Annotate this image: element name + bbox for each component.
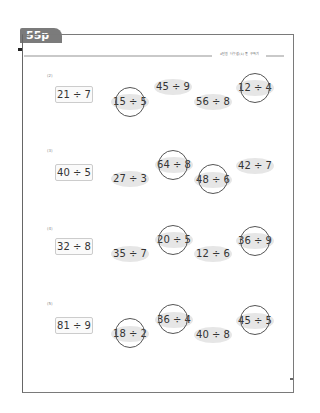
question-box: 40 ÷ 5 xyxy=(55,164,93,181)
answer-circle xyxy=(158,150,188,180)
page-number-mark xyxy=(290,378,293,380)
question-box: 32 ÷ 8 xyxy=(55,238,93,255)
answer-circle xyxy=(158,304,188,334)
answer-circle xyxy=(198,164,228,194)
option-oval[interactable]: 56 ÷ 8 xyxy=(194,94,232,110)
answer-circle xyxy=(240,73,270,103)
problem-number: (3) xyxy=(47,148,53,153)
answer-circle xyxy=(158,225,188,255)
option-oval[interactable]: 27 ÷ 3 xyxy=(111,171,149,187)
unit-header-text: 4단원 나눗셈(1) 몫 구하기 xyxy=(220,52,259,56)
option-oval[interactable]: 12 ÷ 6 xyxy=(194,246,232,262)
answer-circle xyxy=(115,318,145,348)
answer-circle xyxy=(240,305,270,335)
option-oval[interactable]: 40 ÷ 8 xyxy=(194,327,232,343)
problem-number: (5) xyxy=(47,301,53,306)
answer-circle xyxy=(115,87,145,117)
option-oval[interactable]: 35 ÷ 7 xyxy=(111,246,149,262)
problem-number: (2) xyxy=(47,73,53,78)
question-box: 21 ÷ 7 xyxy=(55,86,93,103)
option-oval[interactable]: 42 ÷ 7 xyxy=(236,158,274,174)
answer-circle xyxy=(240,226,270,256)
header-divider-left xyxy=(24,55,212,57)
question-box: 81 ÷ 9 xyxy=(55,317,93,334)
option-oval[interactable]: 45 ÷ 9 xyxy=(154,79,192,95)
problem-number: (4) xyxy=(47,226,53,231)
header-divider-right xyxy=(266,55,284,57)
